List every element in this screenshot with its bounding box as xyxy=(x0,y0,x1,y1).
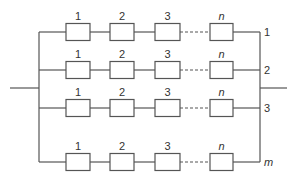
component-label: n xyxy=(218,10,224,22)
parallel-series-diagram: 123n1123n2123n3123nm xyxy=(0,0,299,182)
branch-label: m xyxy=(264,156,273,168)
component-block xyxy=(110,62,134,79)
component-label: 3 xyxy=(164,86,170,98)
component-label: 3 xyxy=(164,10,170,22)
component-block xyxy=(155,24,180,41)
component-block xyxy=(210,62,233,79)
component-block xyxy=(110,154,134,171)
component-block xyxy=(155,154,180,171)
component-label: 1 xyxy=(75,48,81,60)
branch-label: 1 xyxy=(264,26,270,38)
component-label: 2 xyxy=(119,86,125,98)
component-block xyxy=(66,100,90,117)
component-label: n xyxy=(218,140,224,152)
branch-row: 123n1 xyxy=(39,10,270,41)
component-block xyxy=(66,24,90,41)
component-label: 1 xyxy=(75,86,81,98)
component-block xyxy=(210,24,233,41)
component-block xyxy=(66,62,90,79)
branch-row: 123n3 xyxy=(39,86,270,117)
component-block xyxy=(110,100,134,117)
component-label: n xyxy=(218,86,224,98)
component-label: 2 xyxy=(119,10,125,22)
component-label: 3 xyxy=(164,48,170,60)
branch-label: 2 xyxy=(264,64,270,76)
component-label: 1 xyxy=(75,10,81,22)
component-label: 3 xyxy=(164,140,170,152)
component-block xyxy=(110,24,134,41)
component-block xyxy=(210,154,233,171)
component-label: 1 xyxy=(75,140,81,152)
component-label: 2 xyxy=(119,48,125,60)
component-label: 2 xyxy=(119,140,125,152)
component-label: n xyxy=(218,48,224,60)
branch-row: 123n2 xyxy=(39,48,270,79)
component-block xyxy=(66,154,90,171)
component-block xyxy=(210,100,233,117)
branch-row: 123nm xyxy=(39,140,273,171)
component-block xyxy=(155,100,180,117)
component-block xyxy=(155,62,180,79)
branch-label: 3 xyxy=(264,102,270,114)
